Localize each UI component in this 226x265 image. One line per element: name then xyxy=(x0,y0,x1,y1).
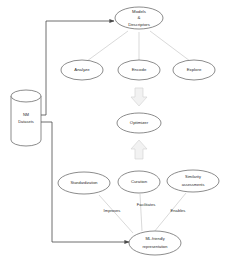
edge-models-to-explore xyxy=(150,31,190,61)
node-ml-friendly-representation[interactable]: ML-friendly representation xyxy=(129,231,181,255)
node-encode[interactable]: Encode xyxy=(118,60,160,80)
node-explore[interactable]: Explore xyxy=(173,60,215,80)
edge-label-enables: Enables xyxy=(171,208,186,213)
edge-label-facilitates: Facilitates xyxy=(137,202,155,207)
datastore-nm-datasets[interactable]: NM Datasets xyxy=(11,90,41,146)
cylinder-top xyxy=(11,90,41,102)
similarity-label-line2: assessments xyxy=(182,182,205,187)
models-label-line1: Models xyxy=(132,9,146,14)
workflow-diagram: NM Datasets Models & Descriptors Analyze… xyxy=(0,0,226,265)
node-similarity-assessments[interactable]: Similarity assessments xyxy=(167,170,219,192)
edge-models-to-analyze xyxy=(87,31,128,61)
node-models-and-descriptors[interactable]: Models & Descriptors xyxy=(115,7,163,29)
encode-label: Encode xyxy=(132,67,147,72)
edge-standardization-to-output xyxy=(99,195,133,233)
diagram-canvas: NM Datasets Models & Descriptors Analyze… xyxy=(0,0,226,265)
models-label-line2: & xyxy=(138,15,141,20)
standardization-label: Standardization xyxy=(70,180,97,185)
edge-label-improves: Improves xyxy=(104,208,121,213)
node-optimizer[interactable]: Optimizer xyxy=(117,113,161,133)
block-arrow-up xyxy=(131,140,147,159)
explore-label: Explore xyxy=(187,67,202,72)
datastore-label-line1: NM xyxy=(23,112,29,117)
node-ellipse-shape xyxy=(129,231,181,255)
node-standardization[interactable]: Standardization xyxy=(58,172,110,194)
node-curation[interactable]: Curation xyxy=(118,171,160,193)
optimizer-label: Optimizer xyxy=(130,120,149,125)
models-label-line3: Descriptors xyxy=(128,22,150,27)
output-label-line2: representation xyxy=(143,244,168,249)
analyze-label: Analyze xyxy=(74,67,90,72)
block-arrow-down xyxy=(131,88,147,106)
datastore-label-line2: Datasets xyxy=(18,119,33,124)
models-to-tasks-edges xyxy=(87,31,190,61)
output-label-line1: ML-friendly xyxy=(145,236,164,241)
edge-curation-to-output xyxy=(140,194,142,231)
similarity-label-line1: Similarity xyxy=(185,174,201,179)
curation-label: Curation xyxy=(131,179,148,184)
edge-label-group: Improves Facilitates Enables xyxy=(104,202,186,213)
node-analyze[interactable]: Analyze xyxy=(61,60,103,80)
